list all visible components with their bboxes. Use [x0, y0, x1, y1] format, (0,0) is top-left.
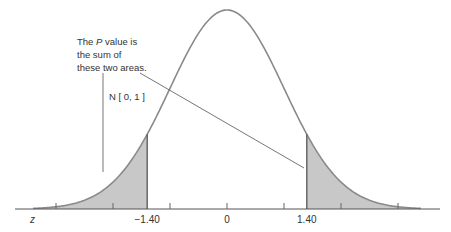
annotation-the: The — [77, 36, 96, 47]
annotation-line-1: The P value is — [77, 36, 137, 47]
annotation-line-2: the sum of — [77, 49, 122, 60]
normal-distribution-figure: −1.4001.40 z The P value is the sum of t… — [0, 0, 451, 232]
annotation-value-is: value is — [102, 36, 137, 47]
annotation-line-3: these two areas. — [77, 62, 147, 73]
annotation-pointer-right — [140, 73, 304, 168]
tick-label-1.4: 1.40 — [297, 214, 317, 225]
tick-label-0: 0 — [224, 214, 230, 225]
axis-variable-label: z — [29, 214, 35, 225]
tick-label--1.4: −1.40 — [135, 214, 161, 225]
curve-label: N [ 0, 1 ] — [109, 91, 145, 102]
